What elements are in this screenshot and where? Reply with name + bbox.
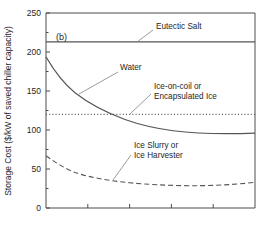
chart-figure: Storage Cost ($/kW of saved chiller capa… (0, 0, 264, 226)
y-tick-label-250: 250 (27, 8, 41, 18)
series-label-water: Water (120, 63, 142, 72)
series-label-ice-slurry-line2: Ice Harvester (134, 151, 183, 160)
panel-label: (b) (56, 32, 67, 42)
series-label-ice-on-coil-line1: Ice-on-coil or (154, 82, 202, 91)
series-label-eutectic-salt: Eutectic Salt (156, 22, 202, 31)
y-tick-label-50: 50 (32, 164, 42, 174)
y-tick-label-0: 0 (36, 203, 41, 213)
y-tick-label-150: 150 (27, 86, 41, 96)
y-tick-label-200: 200 (27, 47, 41, 57)
series-label-ice-on-coil-line2: Encapsulated Ice (154, 92, 217, 101)
chart-background (0, 0, 264, 226)
y-tick-label-100: 100 (27, 125, 41, 135)
y-axis-title: Storage Cost ($/kW of saved chiller capa… (3, 26, 13, 196)
storage-cost-line-chart: Storage Cost ($/kW of saved chiller capa… (0, 0, 264, 226)
series-label-ice-slurry-line1: Ice Slurry or (134, 141, 178, 150)
